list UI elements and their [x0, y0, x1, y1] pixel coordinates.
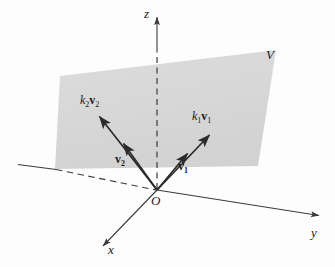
vector-space-figure: z y x O V v1 v2 k1v1 k2v2: [0, 0, 335, 267]
y-axis-positive: [157, 190, 319, 216]
vector-v2-label-subscript: 2: [121, 159, 125, 168]
z-axis-label: z: [144, 7, 149, 20]
v1-subscript: 1: [207, 116, 211, 125]
diagram-canvas: [0, 0, 335, 267]
x-axis-positive: [103, 190, 157, 246]
v2-subscript: 2: [95, 100, 99, 109]
vector-v1-label-subscript: 1: [184, 166, 188, 175]
origin-label: O: [151, 194, 160, 207]
vector-v2-label: v2: [115, 153, 125, 168]
plane-v-surface: [55, 50, 276, 169]
y-axis-negative-hidden: [56, 170, 156, 191]
y-axis-label: y: [311, 226, 317, 239]
y-axis-negative-visible: [18, 165, 56, 170]
vector-k1v1-label: k1v1: [192, 110, 211, 125]
x-axis-label: x: [108, 243, 114, 256]
vector-v1-label: v1: [178, 160, 188, 175]
plane-v-label: V: [266, 48, 274, 61]
vector-k2v2-label: k2v2: [80, 94, 99, 109]
